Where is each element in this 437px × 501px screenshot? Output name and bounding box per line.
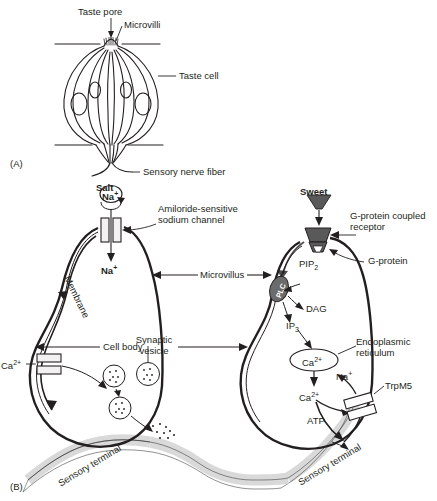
gpcr-line2: receptor — [350, 221, 385, 232]
label-trpm5: TrpM5 — [385, 380, 412, 391]
label-amiloride-channel: Amiloride-sensitive sodium channel — [158, 203, 258, 225]
er-line1: Endoplasmic — [356, 336, 410, 347]
amiloride-line2: sodium channel — [158, 214, 225, 225]
label-calcium-left: Ca2+ — [1, 357, 21, 371]
label-endoplasmic-reticulum: Endoplasmic reticulum — [356, 336, 428, 358]
er-line2: reticulum — [356, 347, 395, 358]
panel-b-id: (B) — [10, 481, 23, 492]
ip3-sub: 3 — [295, 326, 299, 333]
label-taste-cell: Taste cell — [179, 70, 219, 81]
label-taste-pore: Taste pore — [78, 6, 122, 17]
gpcr-line1: G-protein coupled — [350, 210, 426, 221]
label-cell-body: Cell body — [103, 341, 143, 352]
label-salt-ion: Na+ — [102, 188, 118, 202]
label-microvillus: Microvillus — [200, 269, 244, 280]
label-dag: DAG — [306, 303, 327, 314]
salt-ion-text: Na — [102, 191, 114, 202]
label-cytosolic-calcium: Ca2+ — [299, 389, 319, 403]
label-pip2: PIP2 — [299, 258, 318, 273]
label-sensory-nerve-fiber: Sensory nerve fiber — [143, 166, 225, 177]
pip2-text: PIP — [299, 258, 314, 269]
calcium-channel-shape — [37, 354, 61, 374]
pip2-sub: 2 — [314, 264, 318, 271]
label-sodium-right: Na+ — [336, 368, 352, 382]
taste-transduction-figure: Taste pore Microvilli Taste cell Sensory… — [0, 0, 437, 501]
label-er-calcium: Ca2+ — [302, 354, 322, 368]
calcium-left-charge: 2+ — [13, 359, 21, 366]
amiloride-line1: Amiloride-sensitive — [158, 203, 238, 214]
er-calcium-text: Ca — [302, 357, 314, 368]
synaptic-vesicles — [103, 363, 160, 420]
ip3-text: IP — [286, 320, 295, 331]
label-sodium-influx: Na+ — [101, 262, 117, 276]
sodium-right-text: Na — [336, 371, 348, 382]
label-microvilli: Microvilli — [124, 19, 160, 30]
label-atp: ATP — [307, 415, 325, 426]
panel-a-drawing — [0, 0, 437, 180]
label-g-protein: G-protein — [368, 255, 408, 266]
cyto-calcium-charge: 2+ — [311, 391, 319, 398]
sodium-right-charge: + — [348, 370, 352, 377]
sodium-influx-text: Na — [101, 265, 113, 276]
panel-a-id: (A) — [10, 158, 23, 169]
er-calcium-charge: 2+ — [314, 356, 322, 363]
salt-ion-charge: + — [114, 190, 118, 197]
gpcr-shape — [305, 228, 331, 242]
vesicle-line2: vesicle — [139, 345, 168, 356]
calcium-left-text: Ca — [1, 360, 13, 371]
label-gpcr: G-protein coupled receptor — [350, 210, 437, 232]
trpm5-channel-shape — [344, 393, 377, 421]
cyto-calcium-text: Ca — [299, 392, 311, 403]
sodium-influx-charge: + — [113, 264, 117, 271]
label-sweet-stimulus: Sweet — [300, 186, 327, 197]
label-ip3: IP3 — [286, 320, 299, 335]
sweet-ligand-shape — [307, 195, 331, 209]
